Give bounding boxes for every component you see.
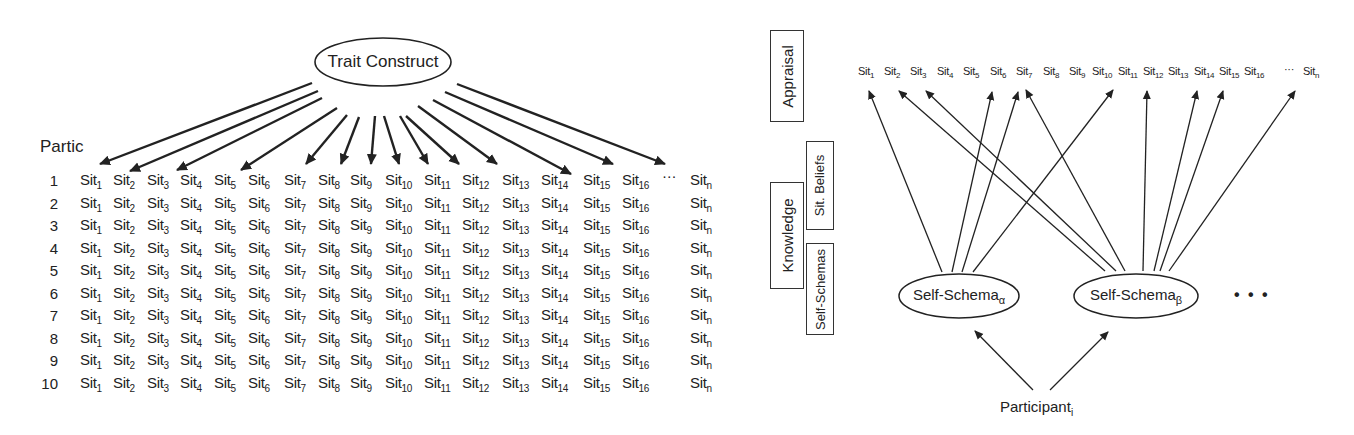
situation-cell: Sit5 — [214, 352, 236, 371]
appraisal-situation: Sit3 — [910, 65, 926, 80]
situation-cell: Sit11 — [424, 195, 450, 214]
situation-cell: Sit5 — [214, 217, 236, 236]
participant-row-number: 6 — [32, 285, 58, 302]
situation-cell: Sit3 — [147, 217, 169, 236]
situation-cell: Sitn — [690, 285, 712, 304]
appraisal-situation: Sit2 — [884, 65, 900, 80]
situation-cell: Sit4 — [180, 262, 202, 281]
situation-cell: Sit11 — [424, 262, 450, 281]
situation-cell: Sit10 — [385, 217, 412, 236]
situation-cell: Sitn — [690, 307, 712, 326]
situation-cell: Sitn — [690, 217, 712, 236]
situation-cell: Sit1 — [80, 262, 102, 281]
situation-cell: Sitn — [690, 330, 712, 349]
situation-cell: Sit16 — [622, 262, 649, 281]
situation-cell: Sit4 — [180, 240, 202, 259]
situation-cell: Sit11 — [424, 217, 450, 236]
participant-row-number: 1 — [32, 172, 58, 189]
situation-cell: Sit15 — [583, 262, 610, 281]
situation-cell: Sit14 — [541, 307, 568, 326]
situation-cell: Sit6 — [248, 285, 270, 304]
knowledge-label: Knowledge — [779, 198, 796, 272]
situation-cell: Sit10 — [385, 262, 412, 281]
situation-cell: Sit1 — [80, 217, 102, 236]
appraisal-situation: Sit15 — [1219, 65, 1239, 80]
situation-cell: Sit1 — [80, 172, 102, 191]
situation-cell: Sit6 — [248, 330, 270, 349]
situation-cell: Sit9 — [350, 375, 372, 394]
situation-cell: Sit7 — [284, 262, 306, 281]
situation-cell: Sit3 — [147, 330, 169, 349]
situation-cell: Sit3 — [147, 352, 169, 371]
situation-cell: Sit12 — [462, 285, 489, 304]
situation-cell: Sit2 — [113, 330, 135, 349]
situation-cell: Sit15 — [583, 285, 610, 304]
situation-cell: Sit8 — [318, 195, 340, 214]
situation-cell: Sit6 — [248, 307, 270, 326]
situation-cell: Sit15 — [583, 240, 610, 259]
situation-cell: Sit2 — [113, 285, 135, 304]
situation-cell: Sit2 — [113, 217, 135, 236]
situation-cell: Sit14 — [541, 262, 568, 281]
situation-cell: Sit6 — [248, 217, 270, 236]
situation-cell: Sit13 — [502, 307, 529, 326]
situation-cell: Sit3 — [147, 375, 169, 394]
situation-cell: Sitn — [690, 240, 712, 259]
situation-cell: Sit9 — [350, 307, 372, 326]
participant-label: Participanti — [1000, 398, 1073, 418]
situation-cell: Sit12 — [462, 375, 489, 394]
situation-cell: Sit15 — [583, 172, 610, 191]
situation-cell: Sit4 — [180, 307, 202, 326]
situation-ellipsis: ··· — [662, 168, 676, 183]
participant-row-number: 4 — [32, 240, 58, 257]
situation-cell: Sit10 — [385, 285, 412, 304]
knowledge-label-box: Knowledge — [770, 182, 804, 289]
situation-cell: Sit13 — [502, 375, 529, 394]
appraisal-situation: Sit14 — [1194, 65, 1214, 80]
situation-cell: Sit12 — [462, 330, 489, 349]
trait-construct-label: Trait Construct — [318, 52, 448, 72]
situation-cell: Sit6 — [248, 195, 270, 214]
situation-cell: Sit2 — [113, 195, 135, 214]
situation-cell: Sit16 — [622, 172, 649, 191]
situation-cell: Sit9 — [350, 330, 372, 349]
situation-cell: Sit11 — [424, 330, 450, 349]
situation-cell: Sit9 — [350, 195, 372, 214]
situation-cell: Sit7 — [284, 240, 306, 259]
situation-cell: Sit3 — [147, 262, 169, 281]
self-schemas-label: Self-Schemas — [813, 249, 828, 330]
situation-cell: Sitn — [690, 172, 712, 191]
situation-cell: Sit9 — [350, 262, 372, 281]
situation-cell: Sit6 — [248, 240, 270, 259]
situation-cell: Sit6 — [248, 262, 270, 281]
situation-cell: Sit2 — [113, 307, 135, 326]
appraisal-situation: Sit1 — [858, 65, 874, 80]
situation-cell: Sit13 — [502, 285, 529, 304]
participant-row-number: 7 — [32, 307, 58, 324]
participant-row-number: 3 — [32, 217, 58, 234]
participant-row-number: 10 — [32, 375, 58, 392]
situation-cell: Sit5 — [214, 330, 236, 349]
situation-cell: Sit3 — [147, 307, 169, 326]
appraisal-label: Appraisal — [779, 45, 796, 108]
appraisal-situation: Sit4 — [937, 65, 953, 80]
situation-cell: Sit14 — [541, 352, 568, 371]
situation-cell: Sit15 — [583, 307, 610, 326]
situation-cell: Sit2 — [113, 352, 135, 371]
situation-cell: Sit7 — [284, 172, 306, 191]
situation-cell: Sit11 — [424, 172, 450, 191]
appraisal-situation: Sit7 — [1016, 65, 1032, 80]
situation-cell: Sit15 — [583, 330, 610, 349]
situation-cell: Sit16 — [622, 330, 649, 349]
situation-cell: Sit10 — [385, 172, 412, 191]
situation-cell: Sit1 — [80, 307, 102, 326]
situation-cell: Sit4 — [180, 217, 202, 236]
situation-cell: Sit9 — [350, 352, 372, 371]
situation-cell: Sit12 — [462, 217, 489, 236]
situation-cell: Sit3 — [147, 240, 169, 259]
situation-cell: Sit10 — [385, 352, 412, 371]
situation-cell: Sit14 — [541, 217, 568, 236]
situation-cell: Sitn — [690, 352, 712, 371]
appraisal-situation: Sit11 — [1118, 65, 1138, 80]
appraisal-situation: Sit6 — [990, 65, 1006, 80]
